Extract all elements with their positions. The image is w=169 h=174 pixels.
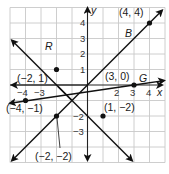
svg-text:4: 4 — [146, 87, 151, 98]
point-label-3-0: (3, 0) — [105, 70, 130, 82]
point-neg2-1 — [54, 67, 59, 72]
svg-text:−3: −3 — [73, 126, 84, 137]
point-label-neg4-neg1: (−4, −1) — [6, 102, 43, 114]
svg-text:2: 2 — [114, 87, 119, 98]
point-label-neg2-1: (−2, 1) — [17, 72, 48, 84]
line-label-R: R — [45, 40, 53, 52]
svg-text:−4: −4 — [17, 87, 28, 98]
svg-text:−2: −2 — [73, 111, 84, 122]
svg-text:−3: −3 — [34, 87, 45, 98]
svg-text:3: 3 — [130, 87, 135, 98]
point-label-4-4: (4, 4) — [119, 6, 144, 18]
point-label-neg2-neg2: (−2, −2) — [35, 150, 72, 162]
x-axis-label: x — [156, 86, 163, 98]
svg-text:2: 2 — [80, 48, 85, 59]
point-label-1-neg2: (1, −2) — [104, 101, 135, 113]
point-1-neg2 — [100, 113, 105, 118]
line-label-B: B — [125, 27, 132, 39]
svg-text:4: 4 — [80, 17, 85, 28]
line-label-G: G — [139, 72, 147, 84]
y-axis-label: y — [90, 4, 97, 16]
svg-text:1: 1 — [80, 64, 85, 75]
coordinate-graph: −4 −3 2 3 4 4 3 2 1 −2 −3 y x R B G (4, … — [0, 0, 169, 174]
svg-text:3: 3 — [80, 33, 85, 44]
leader-line — [57, 118, 60, 148]
point-neg2-neg2 — [54, 113, 59, 118]
point-4-4 — [147, 20, 152, 25]
